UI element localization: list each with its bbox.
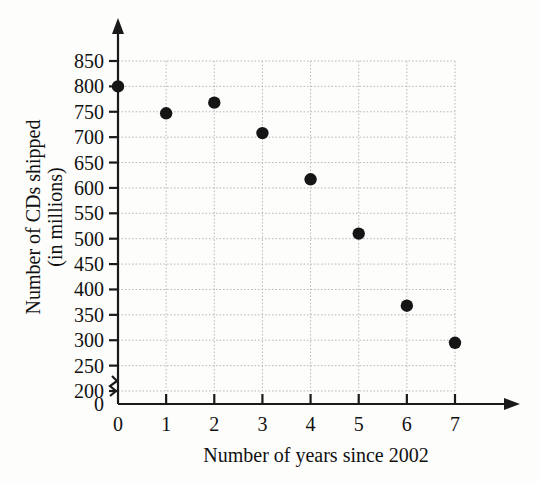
x-tick-label: 2	[209, 413, 219, 435]
y-tick-label: 500	[74, 228, 104, 250]
x-tick-label: 6	[402, 413, 412, 435]
y-tick-label: 650	[74, 152, 104, 174]
y-axis-title-line-1: Number of CDs shipped	[22, 120, 45, 315]
x-axis-arrowhead	[504, 398, 520, 410]
y-tick-label: 550	[74, 202, 104, 224]
y-axis-title-group: Number of CDs shipped (in millions)	[22, 120, 67, 315]
x-tick-label: 7	[450, 413, 460, 435]
chart-canvas: 0200250300350400450500550600650700750800…	[0, 0, 540, 482]
y-tick-label: 200	[74, 380, 104, 402]
y-tick-label: 850	[74, 50, 104, 72]
y-tick-label: 800	[74, 75, 104, 97]
data-point	[208, 96, 220, 108]
x-tick-label: 4	[306, 413, 316, 435]
y-tick-label: 350	[74, 304, 104, 326]
data-point	[401, 300, 413, 312]
data-point	[353, 227, 365, 239]
data-point	[112, 80, 124, 92]
data-point	[304, 173, 316, 185]
y-axis-title-line-2: (in millions)	[44, 167, 67, 266]
x-axis-title-group: Number of years since 2002	[203, 444, 429, 467]
x-tick-label: 0	[113, 413, 123, 435]
data-point	[449, 337, 461, 349]
data-point	[160, 107, 172, 119]
data-point	[256, 127, 268, 139]
x-tick-label: 5	[354, 413, 364, 435]
x-axis-title: Number of years since 2002	[203, 444, 429, 467]
y-tick-label: 750	[74, 101, 104, 123]
y-tick-label: 600	[74, 177, 104, 199]
y-axis-arrowhead	[112, 18, 124, 34]
y-tick-label: 400	[74, 278, 104, 300]
x-tick-label: 3	[257, 413, 267, 435]
axis-break-symbol	[110, 376, 117, 396]
x-tick-label: 1	[161, 413, 171, 435]
y-tick-label: 700	[74, 126, 104, 148]
y-axis-ticks: 0200250300350400450500550600650700750800…	[74, 50, 118, 415]
axes	[110, 18, 520, 410]
y-tick-label: 300	[74, 329, 104, 351]
y-tick-label: 250	[74, 355, 104, 377]
y-tick-label: 450	[74, 253, 104, 275]
x-axis-ticks: 01234567	[113, 394, 460, 435]
data-points	[112, 80, 461, 349]
scatter-plot-figure: 0200250300350400450500550600650700750800…	[0, 0, 540, 482]
